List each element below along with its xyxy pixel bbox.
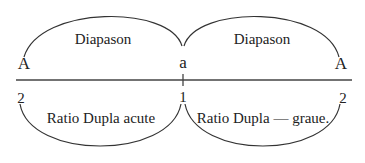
point-A-left: A xyxy=(18,54,31,73)
bottom-arc-left-label: Ratio Dupla acute xyxy=(47,110,156,126)
diapason-diagram: Diapason Diapason A a A 2 1 2 Ratio Dupl… xyxy=(0,0,365,163)
number-right: 2 xyxy=(339,90,347,106)
number-left: 2 xyxy=(17,90,25,106)
point-a-center: a xyxy=(179,53,187,72)
top-arc-right-label: Diapason xyxy=(234,31,291,47)
number-center: 1 xyxy=(179,89,187,105)
bottom-arc-right-label: Ratio Dupla — graue. xyxy=(197,110,329,126)
top-arc-left-label: Diapason xyxy=(75,31,132,47)
point-A-right: A xyxy=(335,54,348,73)
